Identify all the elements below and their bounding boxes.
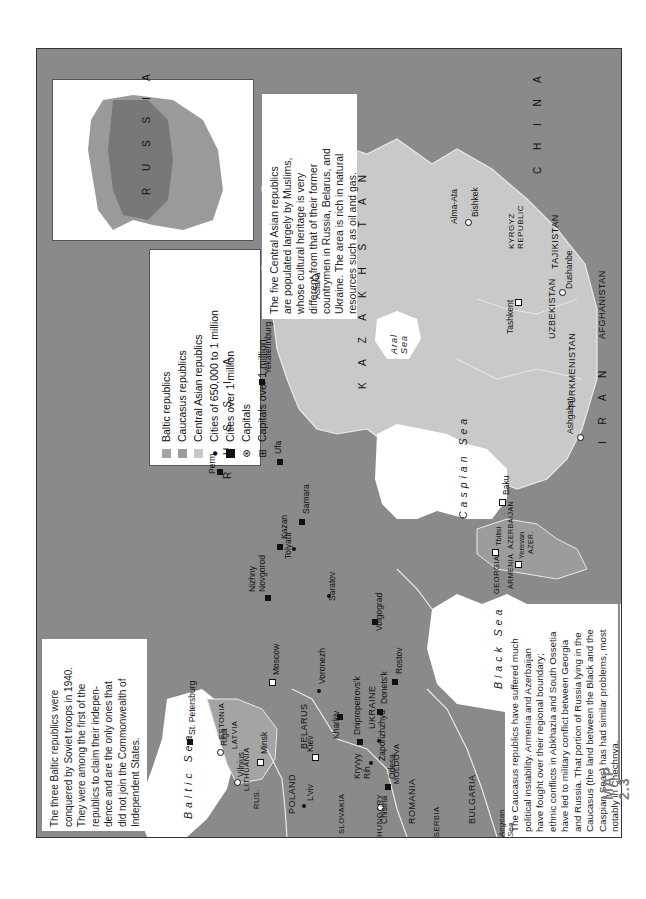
legend-item-baltic: Baltic republics [158, 258, 174, 458]
label-slovakia: SLOVAKIA [337, 793, 346, 834]
city-marker-ufa [277, 459, 283, 465]
city-yerevan: Yerevan [517, 532, 526, 559]
capital-circle-icon: ⊛ [241, 449, 252, 458]
city-chisina: Chisina [379, 796, 389, 824]
city-marker-vilnius [234, 779, 241, 786]
label-serbia: SERBIA [432, 806, 441, 837]
city-perm: Perm [207, 454, 217, 474]
capital-square-icon: ⊞ [257, 449, 268, 458]
city-dushanbe: Dushanbe [564, 250, 574, 289]
city-marker-kiev [312, 754, 319, 761]
label-tajikistan: TAJIKISTAN [550, 214, 560, 269]
inset-russia-label: R U S S I A [141, 67, 152, 195]
city-st-petersburg: St. Petersburg [187, 681, 197, 735]
city-marker-bishkek [465, 219, 472, 226]
note-baltic: The three Baltic republics were conquere… [42, 639, 147, 831]
label-afghanistan: AFGHANISTAN [597, 270, 607, 339]
legend-item-central-asian: Central Asian republics [190, 258, 206, 458]
city-marker-odesa [385, 784, 391, 790]
city-dnipropetrovsk: Dnipropetrovs'k [352, 676, 362, 735]
inset-map: R U S S I A [52, 79, 254, 241]
city-marker-tashkent [515, 299, 522, 306]
label-black-sea: Black Sea [492, 606, 504, 689]
label-russia: R U S S I A [222, 351, 233, 479]
city-kiev: Kiev [305, 735, 315, 752]
label-aral-sea: Aral Sea [389, 334, 409, 354]
legend-list: Baltic republics Caucasus republics Cent… [158, 258, 270, 458]
note-central-asia: The five Central Asian republics are pop… [262, 94, 357, 319]
city-marker-ashgabat [577, 434, 584, 441]
label-latvia: LATVIA [230, 721, 239, 749]
city-marker-yekaterinburg [259, 379, 265, 385]
city-ufa: Ufa [273, 441, 283, 454]
city-volgograd: Volgograd [374, 593, 384, 631]
city-marker-moscow [269, 679, 276, 686]
city-baku: Baku [501, 476, 511, 495]
label-kyrgyz: KYRGYZ REPUBLIC [507, 205, 525, 249]
city-voronezh: Voronezh [317, 648, 327, 684]
city-bishkek: Bishkek [470, 187, 480, 217]
city-marker-nizhny-novgorod [265, 595, 271, 601]
map-frame: R U S S I A The five Central Asian repub… [36, 48, 622, 838]
city-marker-rostov [392, 679, 398, 685]
caption-rule [618, 468, 620, 784]
map-number-label: MAP 2.3 [600, 754, 632, 800]
label-iran: I R A N [597, 364, 608, 444]
legend-item-capitals: ⊛Capitals [238, 258, 254, 458]
city-donetsk: Donets'k [379, 671, 389, 704]
city-nizhny-novgorod: Nizhny Novgorod [247, 555, 267, 592]
city-marker-dushanbe [559, 289, 566, 296]
city-kharkiv: Kharkiv [331, 711, 341, 739]
label-azerbaijan: AZERBAIJAN [507, 501, 514, 549]
label-azer: AZER. [527, 531, 534, 554]
city-marker-st-petersburg [187, 739, 193, 745]
label-kazakhstan: K A Z A K H S T A N [357, 168, 368, 389]
city-samara: Samara [301, 484, 311, 514]
legend-item-caucasus: Caucasus republics [174, 258, 190, 458]
city-vilnius: Vilnius [236, 752, 246, 777]
label-rus: RUS. [252, 789, 261, 809]
city-marker-voronezh [317, 689, 321, 693]
city-riga: Riga [219, 729, 229, 746]
label-aegean-sea: Aegean Sea [497, 809, 515, 837]
caucasus-swatch [178, 449, 187, 458]
label-caspian-sea: Caspian Sea [457, 415, 469, 519]
legend-item-cities-650k: ●Cities of 650,000 to 1 million [206, 258, 222, 458]
note-baltic-text: The three Baltic republics were conquere… [48, 642, 143, 827]
label-china: C H I N A [532, 69, 543, 174]
label-romania: ROMANIA [407, 778, 417, 824]
city-saratov: Saratov [327, 572, 337, 601]
label-uzbekistan: UZBEKISTAN [547, 278, 557, 339]
note-caucasus: The Caucasus republics have suffered muc… [505, 604, 621, 837]
label-bulgaria: BULGARIA [467, 774, 477, 824]
city-lviv: L'viv [305, 784, 315, 801]
city-ashgabat: Ashgabat [565, 398, 575, 434]
city-odesa: Odesa [387, 754, 397, 779]
city-rostov: Rostov [394, 648, 404, 674]
city-marker-minsk [257, 759, 264, 766]
city-astana: Astana [312, 273, 322, 299]
label-poland: POLAND [287, 774, 297, 814]
city-marker-tbilisi [492, 549, 499, 556]
city-marker-riga [217, 749, 224, 756]
baltic-swatch [162, 449, 171, 458]
city-marker-dnipropetrovsk [357, 739, 363, 745]
city-alma-ata: Alma-Ata [449, 189, 459, 224]
label-georgia: GEORGIA [492, 555, 501, 594]
legend: Baltic republics Caucasus republics Cent… [149, 249, 261, 466]
city-zaporizhzhya: Zaporizhzhya [377, 710, 387, 761]
central-asian-swatch [194, 449, 203, 458]
city-minsk: Minsk [259, 732, 269, 754]
label-armenia: ARMENIA [507, 554, 514, 589]
city-marker-baku [499, 499, 506, 506]
city-marker-samara [299, 519, 305, 525]
city-marker-lviv [302, 804, 306, 808]
label-ukraine: UKRAINE [367, 685, 377, 729]
city-kryvyy-rih: Kryvyy Rih [352, 754, 372, 780]
city-marker-yerevan [515, 561, 522, 568]
city-moscow: Moscow [271, 644, 281, 675]
city-marker-perm [217, 469, 223, 475]
city-tolyatti: Tolyatti [283, 533, 293, 559]
city-yekaterinburg: Yekaterinburg [263, 322, 273, 374]
city-tashkent: Tashkent [505, 300, 515, 334]
